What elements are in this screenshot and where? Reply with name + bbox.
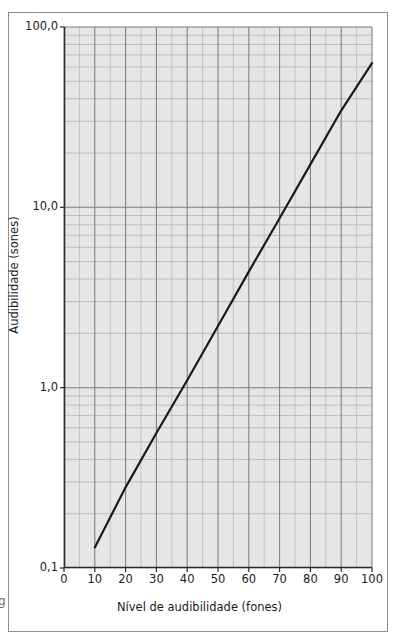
x-tick-label: 90 [334,574,349,586]
y-tick-label: 0,1 [40,562,58,574]
y-axis-label: Audibilidade (sones) [7,175,21,375]
cropped-page-glyph: g [0,594,10,610]
chart-svg [64,27,372,568]
plot-area [64,27,372,568]
figure-container: 0,11,010,0100,0 0102030405060708090100 N… [0,0,399,642]
x-tick-label: 0 [60,574,67,586]
x-tick-label: 40 [180,574,195,586]
y-tick-label: 100,0 [25,21,58,33]
x-tick-label: 10 [87,574,102,586]
x-tick-label: 50 [211,574,226,586]
x-tick-label: 60 [241,574,256,586]
x-tick-label: 80 [303,574,318,586]
x-tick-label: 70 [272,574,287,586]
y-tick-label: 10,0 [32,201,58,213]
y-tick-label: 1,0 [40,382,58,394]
x-axis-label: Nível de audibilidade (fones) [0,600,399,614]
x-tick-label: 30 [149,574,164,586]
x-tick-label: 20 [118,574,133,586]
x-tick-label: 100 [361,574,383,586]
x-axis-ticks: 0102030405060708090100 [0,574,399,594]
